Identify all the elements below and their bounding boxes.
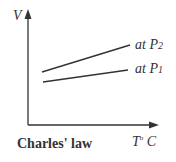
line-p2	[42, 45, 130, 72]
series-label-p1-sub: 1	[158, 64, 163, 75]
line-p1	[43, 70, 128, 82]
x-axis-label: To C	[132, 135, 156, 149]
series-label-p2-text: at P	[135, 37, 158, 52]
series-label-p2: at P2	[135, 38, 163, 52]
chart-caption: Charles' law	[17, 137, 92, 151]
y-axis-arrow-icon	[25, 9, 32, 19]
x-axis-arrow-icon	[149, 122, 159, 129]
x-axis-label-t: T	[132, 134, 140, 149]
series-label-p1: at P1	[135, 62, 163, 76]
x-axis-label-c: C	[147, 134, 156, 149]
series-label-p1-text: at P	[135, 61, 158, 76]
series-label-p2-sub: 2	[158, 40, 163, 51]
x-axis-label-degree: o	[140, 134, 144, 142]
y-axis-label: V	[13, 9, 22, 23]
